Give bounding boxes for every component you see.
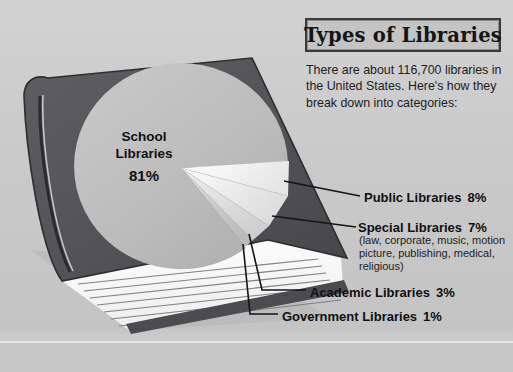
legend-value-government: 1% (423, 309, 442, 324)
legend-item-academic-libraries: Academic Libraries3% (310, 285, 455, 300)
title-box: Types of Libraries (305, 18, 501, 52)
legend-item-special-libraries: Special Libraries7% (358, 220, 487, 235)
legend-item-public-libraries: Public Libraries8% (364, 190, 486, 205)
pie-slice-label-school-line2: Libraries (88, 145, 200, 162)
intro-paragraph: There are about 116,700 libraries in the… (306, 62, 511, 111)
legend-label-public: Public Libraries (364, 190, 462, 205)
legend-value-special: 7% (468, 220, 487, 235)
pie-slice-label-school: School Libraries 81% (88, 128, 200, 184)
legend-label-special: Special Libraries (358, 220, 462, 235)
pie-slice-label-school-value: 81% (88, 167, 200, 184)
legend-label-academic: Academic Libraries (310, 285, 430, 300)
legend-subtext-special: (law, corporate, music, motion picture, … (359, 234, 511, 274)
legend-value-public: 8% (468, 190, 487, 205)
pie-slice-label-school-line1: School (88, 128, 200, 145)
page-title: Types of Libraries (304, 24, 502, 47)
legend-value-academic: 3% (436, 285, 455, 300)
infographic-poster: School Libraries 81% Types of Libraries … (0, 0, 513, 372)
title-box-inner-border: Types of Libraries (307, 20, 499, 50)
legend-label-government: Government Libraries (282, 309, 417, 324)
legend-item-government-libraries: Government Libraries1% (282, 309, 442, 324)
